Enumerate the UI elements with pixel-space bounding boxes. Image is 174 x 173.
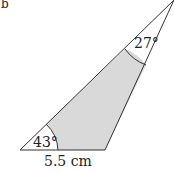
base-length-label: 5.5 cm [44,153,92,169]
part-label: b [1,0,9,11]
triangle-diagram: b 43° 27° 5.5 cm [0,0,174,173]
shaded-region [46,49,146,150]
angle-label-27: 27° [134,35,159,51]
angle-label-43: 43° [33,134,58,150]
